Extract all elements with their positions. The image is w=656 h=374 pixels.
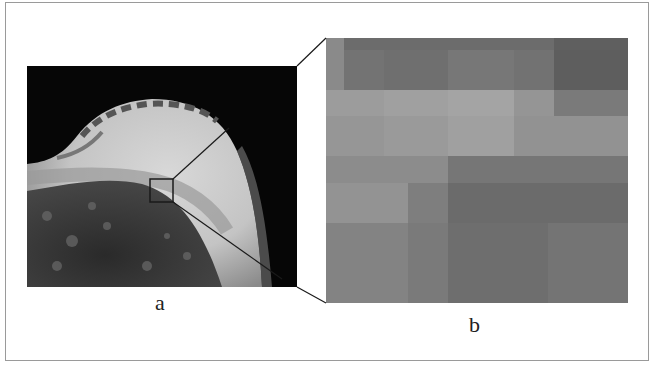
pixel-block bbox=[384, 116, 448, 156]
pixel-block bbox=[514, 116, 628, 156]
pixel-block bbox=[448, 223, 548, 303]
pixel-block bbox=[554, 38, 628, 50]
panel-b-zoomed-region bbox=[326, 38, 628, 303]
pixel-block bbox=[326, 156, 448, 183]
pixel-block bbox=[326, 116, 384, 156]
pixel-block bbox=[408, 183, 448, 223]
pixel-block bbox=[384, 50, 448, 90]
pixel-block bbox=[448, 156, 628, 183]
pixel-block bbox=[514, 50, 554, 90]
pixel-block bbox=[384, 90, 448, 116]
pixel-block bbox=[408, 223, 448, 303]
pixel-block bbox=[344, 38, 554, 50]
pixel-block bbox=[554, 90, 628, 116]
pixel-block bbox=[326, 223, 408, 303]
pixel-block bbox=[326, 183, 408, 223]
pixel-block bbox=[448, 183, 628, 223]
pixel-block bbox=[554, 50, 628, 90]
pixel-block bbox=[548, 223, 628, 303]
pixel-block bbox=[326, 38, 344, 90]
panel-a-label: a bbox=[155, 292, 165, 314]
mri-illustration bbox=[27, 66, 297, 287]
pixel-block bbox=[448, 116, 514, 156]
panel-b-label: b bbox=[469, 314, 480, 336]
panel-a-mri-image bbox=[27, 66, 297, 287]
pixel-block bbox=[344, 50, 384, 90]
pixel-block bbox=[448, 90, 514, 116]
pixel-block bbox=[514, 90, 554, 116]
pixel-block bbox=[326, 90, 384, 116]
pixel-block bbox=[448, 50, 514, 90]
